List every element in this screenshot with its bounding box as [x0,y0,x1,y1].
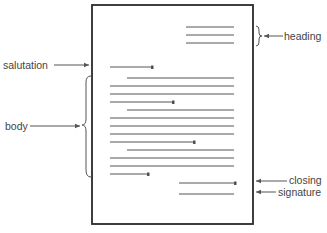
body-line-period [148,173,150,176]
body-line-period [194,141,196,144]
diagram-canvas [0,0,327,233]
closing-label: closing [289,174,322,186]
signature-label: signature [278,186,321,198]
body-line-period [173,101,175,104]
closing-line-period [235,182,237,185]
heading-label: heading [284,30,321,42]
body-label: body [5,120,28,132]
body-brace-icon [82,76,91,177]
heading-brace-icon [256,26,262,46]
letter-format-diagram: heading salutation body closing signatur… [0,0,327,233]
salutation-line-period [152,66,154,69]
page-frame [92,5,253,224]
salutation-label: salutation [3,59,48,71]
